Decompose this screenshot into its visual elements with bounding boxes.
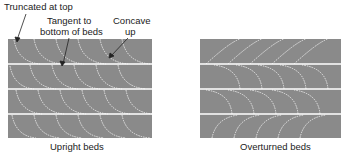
overturned-beds-panel — [200, 39, 341, 138]
caption-upright-beds: Upright beds — [50, 141, 104, 152]
caption-overturned-beds: Overturned beds — [240, 141, 311, 152]
upright-beds-panel — [8, 39, 152, 138]
cross-bedding-diagram — [0, 0, 341, 153]
